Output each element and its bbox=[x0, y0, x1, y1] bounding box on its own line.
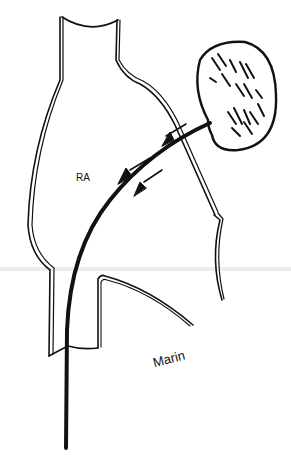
arrow-head-3 bbox=[134, 182, 146, 196]
appendage-mass bbox=[197, 42, 276, 150]
atrium-diagram: RA Marin bbox=[0, 0, 291, 457]
signature-label: Marin bbox=[151, 348, 186, 370]
chamber-label: RA bbox=[76, 172, 90, 183]
right-atrium-outline bbox=[28, 17, 224, 356]
scan-line bbox=[0, 267, 291, 271]
mass-hatching bbox=[210, 54, 264, 136]
